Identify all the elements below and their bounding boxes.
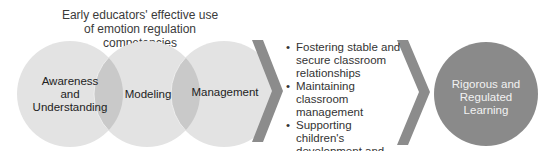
chevron-icon [397,40,430,145]
list-item: Fostering stable and secure classroom re… [286,41,401,80]
label-modeling: Modeling [110,88,186,101]
label-awareness: Awareness and Understanding [20,75,120,114]
list-item: Maintaining classroom management [286,80,401,119]
label-management: Management [180,86,270,99]
list-item: Supporting children's development and le… [286,119,401,151]
outcomes-list: Fostering stable and secure classroom re… [286,41,401,151]
label-result: Rigorous and Regulated Learning [446,78,526,117]
